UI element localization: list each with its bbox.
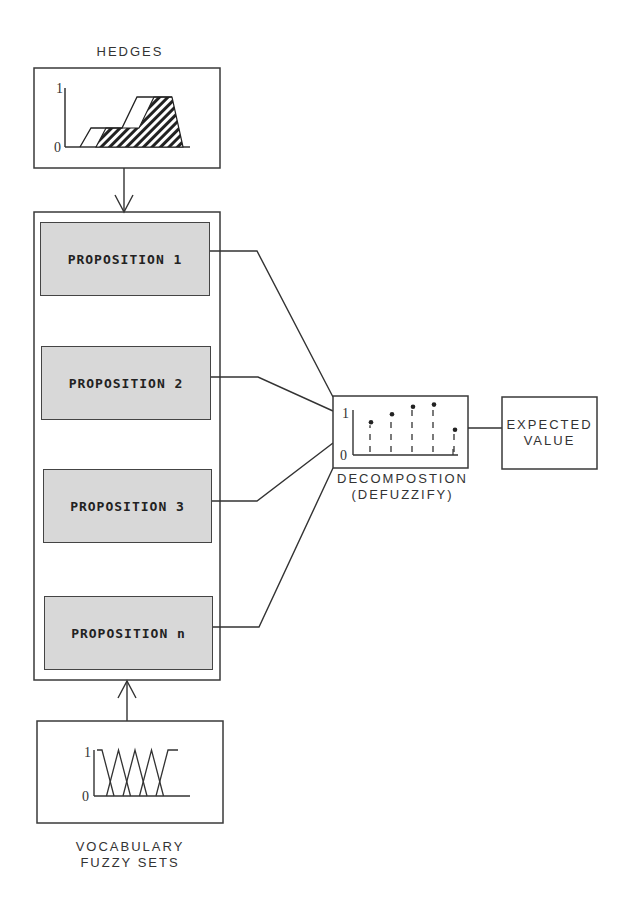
hedges-label: HEDGES [80, 44, 180, 60]
decomposition-spike-point [390, 412, 395, 417]
decomposition-label-line1: DECOMPOSTION [330, 471, 475, 487]
up-arrow [118, 681, 136, 721]
decomposition-label: DECOMPOSTION (DEFUZZIFY) [330, 471, 475, 503]
decomposition-spike-point [369, 420, 374, 425]
vocabulary-y-top-label: 1 [84, 745, 91, 760]
proposition-3: PROPOSITION 3 [43, 469, 212, 543]
proposition-1-label: PROPOSITION 1 [68, 252, 183, 267]
hedges-y-bottom-label: 0 [54, 140, 61, 155]
expected-value-label-line2: VALUE [502, 433, 597, 449]
vocabulary-label-line2: FUZZY SETS [60, 855, 200, 871]
vocabulary-y-bottom-label: 0 [82, 789, 89, 804]
hedges-y-top-label: 1 [56, 81, 63, 96]
proposition-3-label: PROPOSITION 3 [70, 499, 185, 514]
vocabulary-box [37, 721, 223, 823]
decomposition-spike-point [432, 402, 437, 407]
down-arrow [115, 168, 133, 212]
decomposition-y-top-label: 1 [342, 406, 349, 421]
proposition-2: PROPOSITION 2 [41, 346, 211, 420]
proposition-2-label: PROPOSITION 2 [69, 376, 184, 391]
expected-value-label-line1: EXPECTED [502, 417, 597, 433]
expected-value-label: EXPECTED VALUE [502, 417, 597, 449]
proposition-n: PROPOSITION n [44, 596, 213, 670]
vocabulary-label-line1: VOCABULARY [60, 839, 200, 855]
connector-proposition-1 [210, 251, 333, 397]
proposition-1: PROPOSITION 1 [40, 222, 210, 296]
decomposition-spike-point [411, 404, 416, 409]
diagram-canvas: 1 0 1 0 1 0 [0, 0, 636, 914]
decomposition-y-bottom-label: 0 [340, 448, 347, 463]
decomposition-label-line2: (DEFUZZIFY) [330, 487, 475, 503]
connector-proposition-n [210, 468, 333, 627]
decomposition-spike-point [453, 428, 458, 433]
proposition-n-label: PROPOSITION n [71, 626, 186, 641]
connector-proposition-2 [210, 377, 333, 411]
connector-proposition-3 [210, 443, 333, 501]
vocabulary-label: VOCABULARY FUZZY SETS [60, 839, 200, 871]
